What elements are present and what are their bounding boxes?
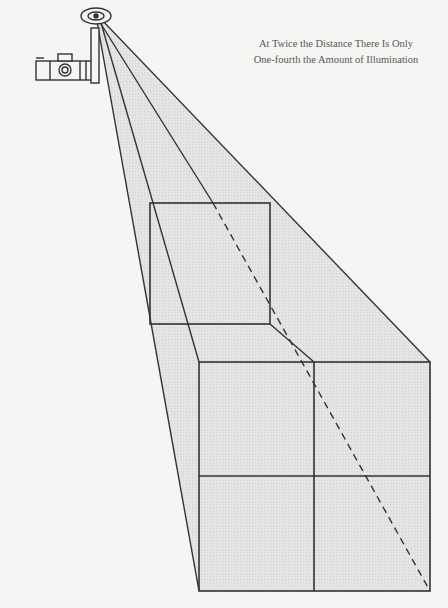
caption-line-2: One-fourth the Amount of Illumination (226, 52, 446, 68)
light-beam (96, 16, 430, 591)
camera-icon (36, 8, 111, 83)
inverse-square-diagram (0, 0, 448, 608)
caption: At Twice the Distance There Is Only One-… (226, 36, 446, 68)
caption-line-1: At Twice the Distance There Is Only (226, 36, 446, 52)
